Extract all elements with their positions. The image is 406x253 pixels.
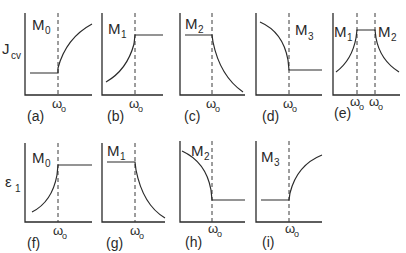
- svg-text:2: 2: [204, 151, 210, 162]
- mode-label: M: [185, 15, 198, 32]
- panel-caption: (e): [334, 105, 351, 121]
- panel-i: M 3 ω o (i): [256, 141, 322, 250]
- panel-caption: (f): [27, 235, 40, 251]
- panel-f: M 0 ω o (f): [25, 143, 92, 251]
- panel-caption: (a): [27, 108, 44, 124]
- panel-caption: (b): [107, 108, 124, 124]
- panel-d: M 3 ω o (d): [256, 13, 322, 124]
- panel-c: M 2 ω o (c): [180, 13, 245, 124]
- svg-text:o: o: [61, 104, 66, 114]
- mode-label: M: [107, 142, 120, 159]
- panel-e: M 1 M 2 ω o ω o (e): [333, 13, 400, 121]
- svg-text:3: 3: [308, 31, 314, 42]
- panel-caption: (d): [262, 108, 279, 124]
- mode-response-diagram: J cv ε 1 M 0 ω o (a) M 1 ω o (b) M 2 ω o…: [0, 0, 406, 253]
- svg-text:ε: ε: [5, 173, 12, 190]
- response-curve: [185, 35, 243, 92]
- panel-caption: (h): [185, 234, 202, 250]
- svg-text:3: 3: [274, 157, 280, 168]
- svg-text:o: o: [62, 231, 67, 241]
- panel-b: M 1 ω o (b): [102, 13, 163, 124]
- svg-text:1: 1: [347, 32, 353, 43]
- mode-label-right: M: [378, 23, 391, 40]
- svg-text:o: o: [378, 102, 383, 112]
- svg-text:o: o: [294, 229, 299, 239]
- svg-text:1: 1: [121, 29, 127, 40]
- panel-g: M 1 ω o (g): [102, 142, 165, 251]
- svg-text:0: 0: [45, 158, 51, 169]
- svg-text:cv: cv: [11, 50, 21, 61]
- svg-text:2: 2: [198, 24, 204, 35]
- response-curve: [32, 165, 92, 212]
- panel-caption: (c): [184, 108, 200, 124]
- mode-label: M: [32, 149, 45, 166]
- mode-label: M: [261, 148, 274, 165]
- mode-label-left: M: [334, 23, 347, 40]
- svg-text:0: 0: [45, 25, 51, 36]
- svg-text:J: J: [2, 40, 10, 57]
- response-curve: [260, 22, 322, 70]
- panel-caption: (i): [262, 234, 274, 250]
- svg-text:o: o: [138, 104, 143, 114]
- row2-ylabel: ε 1: [5, 173, 21, 194]
- mode-label: M: [108, 20, 121, 37]
- svg-text:o: o: [359, 102, 364, 112]
- svg-text:1: 1: [120, 151, 126, 162]
- svg-text:o: o: [215, 104, 220, 114]
- row1-ylabel: J cv: [2, 40, 21, 61]
- panel-a: M 0 ω o (a): [25, 13, 92, 124]
- panel-h: M 2 ω o (h): [180, 141, 245, 250]
- axes: [180, 141, 245, 222]
- svg-text:2: 2: [391, 32, 397, 43]
- svg-text:o: o: [139, 231, 144, 241]
- response-curve: [107, 162, 165, 218]
- svg-text:1: 1: [15, 183, 21, 194]
- mode-label: M: [32, 16, 45, 33]
- svg-text:o: o: [292, 104, 297, 114]
- svg-text:o: o: [217, 229, 222, 239]
- mode-label: M: [191, 142, 204, 159]
- panel-caption: (g): [106, 235, 123, 251]
- mode-label: M: [295, 21, 308, 38]
